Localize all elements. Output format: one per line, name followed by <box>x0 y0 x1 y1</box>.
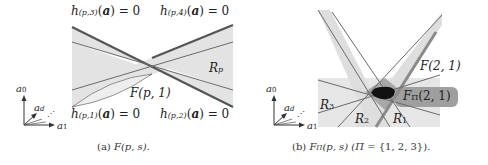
caption-a-args: (p, s). <box>121 141 150 152</box>
label-h2-tail: ) = 0 <box>199 107 229 121</box>
axis-label-a0-sub: 0 <box>22 86 26 94</box>
axis-b-label-a0-sub: 0 <box>272 86 276 94</box>
label-rp: Rp <box>209 62 223 74</box>
label-h2-sub: (p,2) <box>168 111 187 120</box>
axis-label-a1: a1 <box>57 121 67 131</box>
axis-a0-arrow <box>22 95 27 101</box>
axis-b-a1-arrow <box>299 123 305 128</box>
caption-b: (b) FΠ(p, s) (Π = {1, 2, 3}). <box>292 142 430 152</box>
caption-a: (a) F(p, s). <box>97 142 150 152</box>
label-fp1: F(p, 1) <box>130 87 171 99</box>
label-h2-h: h <box>160 107 168 121</box>
axis-label-ad: ad <box>34 103 44 113</box>
axis-a1-arrow <box>49 123 55 128</box>
label-fpi21-rest: (2, 1) <box>418 89 450 103</box>
axis-b-dots: ⋰ <box>297 110 305 118</box>
label-r1: R1 <box>393 113 407 125</box>
label-h4-h: h <box>160 4 168 18</box>
label-h1: h(p,1)(a) = 0 <box>71 108 140 120</box>
axis-b-label-a1-sub: 1 <box>313 123 317 131</box>
label-h1-h: h <box>71 107 79 121</box>
label-r3: R3 <box>320 99 334 111</box>
caption-b-args: (p, s) ( <box>322 141 355 152</box>
axis-b-label-a0: a0 <box>266 84 276 94</box>
caption-a-func: F <box>114 141 121 152</box>
label-r1-sub: 1 <box>402 116 407 125</box>
label-h3-h: h <box>71 4 79 18</box>
label-h4-sub: (p,4) <box>168 8 187 17</box>
label-r2-sub: 2 <box>364 116 369 125</box>
axis-b-label-ad-sub: d <box>290 105 294 113</box>
caption-a-prefix: (a) <box>97 141 114 152</box>
label-r3-r: R <box>320 98 329 112</box>
axis-b-label-ad: ad <box>284 103 294 113</box>
axis-label-ad-sub: d <box>40 105 44 113</box>
axis-label-a1-sub: 1 <box>63 123 67 131</box>
label-h2: h(p,2)(a) = 0 <box>160 108 229 120</box>
caption-b-set: = {1, 2, 3}). <box>364 141 430 152</box>
caption-b-prefix: (b) <box>292 141 309 152</box>
label-h1-tail: ) = 0 <box>110 107 140 121</box>
label-r1-r: R <box>393 112 402 126</box>
axis-b-label-a1: a1 <box>307 121 317 131</box>
axis-b-a0-arrow <box>272 95 277 101</box>
caption-b-pi: Π <box>355 141 364 152</box>
label-rp-sub: p <box>218 65 223 74</box>
label-h4: h(p,4)(a) = 0 <box>160 5 229 17</box>
label-h3-sub: (p,3) <box>79 8 98 17</box>
label-fpi21: FΠ(2, 1) <box>403 90 451 102</box>
label-h4-tail: ) = 0 <box>199 4 229 18</box>
label-rp-r: R <box>209 61 218 75</box>
label-f21: F(2, 1) <box>420 60 461 72</box>
axis-dots: ⋰ <box>47 110 55 118</box>
label-h3-tail: ) = 0 <box>110 4 140 18</box>
label-h3: h(p,3)(a) = 0 <box>71 5 140 17</box>
label-r3-sub: 3 <box>329 102 334 111</box>
label-h1-sub: (p,1) <box>79 111 98 120</box>
axis-label-a0: a0 <box>16 84 26 94</box>
label-r2-r: R <box>355 112 364 126</box>
label-r2: R2 <box>355 113 369 125</box>
